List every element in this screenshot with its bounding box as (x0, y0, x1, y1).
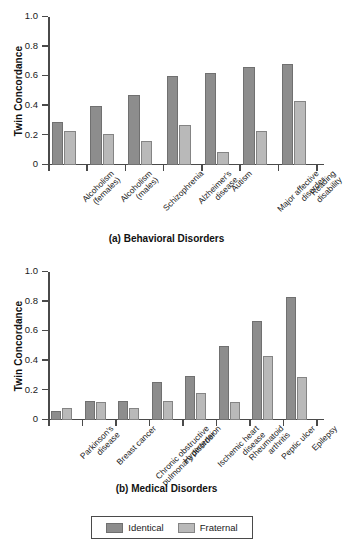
y-tick-label-a-1: 0.2 (25, 130, 38, 140)
y-axis-title-b: Twin Concordance (13, 301, 24, 391)
y-tick-label-b-5: 1.0 (25, 267, 38, 277)
bar-identical (52, 122, 63, 165)
bar-group (115, 272, 149, 420)
bar-group (48, 272, 82, 420)
x-axis-category-labels-a: Alcoholism(females)Alcoholism(males)Schi… (48, 167, 316, 225)
bar-identical (252, 321, 262, 420)
x-tick-b-8 (316, 420, 318, 426)
bar-fraternal (256, 131, 267, 165)
bar-fraternal (64, 131, 75, 165)
bar-identical (243, 67, 254, 165)
y-tick-label-a-4: 0.8 (25, 41, 38, 51)
bar-identical (167, 76, 178, 165)
category-label: Alcoholism(males) (119, 169, 161, 211)
bar-fraternal (103, 134, 114, 165)
plot-area-a: Twin Concordance 00.20.40.60.81.0 (48, 17, 316, 165)
bar-group (149, 272, 183, 420)
y-tick-label-a-2: 0.4 (25, 100, 38, 110)
fraternal-swatch (178, 523, 195, 533)
bar-identical (152, 382, 162, 420)
bar-group (249, 272, 283, 420)
bar-fraternal (179, 125, 190, 165)
bar-group (239, 17, 277, 165)
bar-identical (282, 64, 293, 165)
legend-entry-identical: Identical (106, 523, 163, 533)
category-label: Autism (230, 169, 255, 194)
category-label: Breast cancer (115, 424, 158, 467)
bar-identical (286, 297, 296, 420)
category-label-line: Schizophrenia (161, 169, 205, 213)
chart-panel-behavioral-disorders: Twin Concordance 00.20.40.60.81.0 Alcoho… (0, 0, 333, 255)
bar-group (278, 17, 316, 165)
bar-group (82, 272, 116, 420)
bar-fraternal (263, 356, 273, 420)
bar-fraternal (129, 408, 139, 420)
bar-identical (205, 73, 216, 165)
bar-fraternal (294, 101, 305, 165)
bar-group (125, 17, 163, 165)
category-label-line: Chronic obstructive (154, 424, 211, 481)
bar-identical (185, 376, 195, 420)
bar-identical (90, 106, 101, 165)
y-tick-label-a-0: 0 (33, 160, 38, 170)
legend-label: Fraternal (200, 523, 238, 533)
bar-fraternal (163, 401, 173, 420)
bar-group (48, 17, 86, 165)
bar-identical (128, 95, 139, 165)
bar-identical (85, 401, 95, 420)
bar-identical (219, 346, 229, 420)
bar-identical (51, 411, 61, 420)
bar-fraternal (196, 393, 206, 420)
x-axis-category-labels-b: Parkinson'sdiseaseBreast cancerChronic o… (48, 422, 316, 480)
chart-panel-medical-disorders: Twin Concordance 00.20.40.60.81.0 Parkin… (0, 255, 333, 505)
bar-fraternal (141, 141, 152, 165)
chart-legend: IdenticalFraternal (91, 516, 253, 539)
bar-fraternal (297, 377, 307, 420)
panel-caption-a: (a) Behavioral Disorders (0, 233, 333, 244)
y-tick-label-a-5: 1.0 (25, 12, 38, 22)
category-label: Alcoholism(females) (81, 169, 123, 211)
y-axis-title-a: Twin Concordance (13, 46, 24, 136)
y-tick-label-b-1: 0.2 (25, 385, 38, 395)
legend-label: Identical (128, 523, 163, 533)
bar-fraternal (217, 152, 228, 165)
category-label: Schizophrenia (161, 169, 205, 213)
bar-group (163, 17, 201, 165)
plot-area-b: Twin Concordance 00.20.40.60.81.0 (48, 272, 316, 420)
bar-fraternal (62, 408, 72, 420)
bar-group (216, 272, 250, 420)
y-tick-label-b-0: 0 (33, 415, 38, 425)
identical-swatch (106, 523, 123, 533)
legend-entry-fraternal: Fraternal (178, 523, 238, 533)
bar-group (283, 272, 317, 420)
y-tick-label-b-4: 0.8 (25, 296, 38, 306)
category-label-line: Autism (230, 169, 255, 194)
bar-fraternal (230, 402, 240, 420)
y-tick-label-b-3: 0.6 (25, 326, 38, 336)
bar-fraternal (96, 402, 106, 420)
category-label-line: Breast cancer (115, 424, 158, 467)
panel-caption-b: (b) Medical Disorders (0, 483, 333, 494)
y-tick-label-a-3: 0.6 (25, 71, 38, 81)
bar-group (182, 272, 216, 420)
bar-identical (118, 401, 128, 420)
y-tick-label-b-2: 0.4 (25, 355, 38, 365)
bar-group (201, 17, 239, 165)
bar-group (86, 17, 124, 165)
